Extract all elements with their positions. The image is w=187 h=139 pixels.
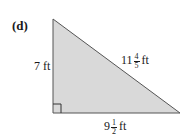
part-label: (d) [12,19,28,32]
triangle-diagram [0,0,187,139]
bottom-unit: ft [119,119,126,133]
hypotenuse-denominator: 5 [135,62,139,70]
bottom-whole: 9 [104,119,110,133]
right-triangle [53,19,180,113]
hypotenuse-whole: 11 [121,53,133,67]
hypotenuse-fraction: 45 [134,53,140,70]
left-side-value: 7 [34,59,40,73]
bottom-side-label: 912ft [104,119,126,136]
hypotenuse-unit: ft [142,53,149,67]
left-side-label: 7 ft [34,60,50,72]
bottom-fraction: 12 [111,119,117,136]
left-side-unit: ft [43,59,50,73]
hypotenuse-label: 1145ft [121,53,149,70]
bottom-denominator: 2 [112,128,116,136]
